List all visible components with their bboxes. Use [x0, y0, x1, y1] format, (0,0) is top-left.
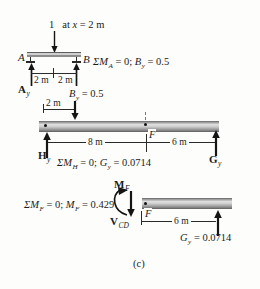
dim-label-2m-left: 2 m — [34, 75, 49, 85]
dimension-tick-mid — [53, 68, 54, 78]
reaction-label-hy: Hy — [38, 149, 50, 161]
dim-label-6m-bottom: 6 m — [172, 216, 191, 226]
figure-beam-analysis: 1at x = 2 m A B 2 m 2 m Ay ΣMA = 0; By =… — [0, 0, 260, 289]
point-f-dashed-tick — [145, 112, 146, 120]
dim-label-2m-offset: 2 m — [46, 98, 61, 108]
span-dimension-line — [48, 142, 215, 143]
beam-hg — [39, 121, 219, 132]
beam-left-pin-dot — [44, 124, 47, 127]
unit-load-label: 1at x = 2 m — [49, 19, 104, 31]
shear-label-vcd: VCD — [110, 215, 129, 227]
point-f-tick-bottom — [141, 211, 142, 225]
beam-ab — [27, 52, 81, 57]
offset-dimension-tick — [43, 104, 44, 113]
figure-caption: (c) — [133, 258, 145, 270]
equation-sum-mh: ΣMH = 0; Gy = 0.0714 — [57, 157, 151, 169]
point-f-tick — [146, 134, 147, 152]
unit-load-arrow — [50, 31, 59, 53]
node-label-b: B — [83, 53, 90, 65]
shear-arrow-vcd — [126, 191, 136, 217]
reaction-label-gy: Gy — [209, 153, 221, 165]
dim-label-8m: 8 m — [86, 137, 105, 147]
segment-cut-dot — [144, 202, 147, 205]
applied-load-label-by: By = 0.5 — [69, 88, 103, 100]
point-f-dot — [144, 123, 147, 126]
beam-segment-fg — [142, 198, 232, 209]
dim-label-2m-right: 2 m — [58, 75, 73, 85]
reaction-arrow-b — [72, 63, 81, 86]
applied-load-arrow-by — [70, 101, 80, 120]
dim-label-6m-mid: 6 m — [170, 137, 189, 147]
node-label-a: A — [18, 51, 25, 63]
equation-sum-mf: ΣMF = 0; MF = 0.429 — [24, 199, 114, 211]
dimension-line-ab — [31, 73, 77, 74]
point-f-label-bottom: F — [144, 208, 152, 220]
equation-sum-ma: ΣMA = 0; By = 0.5 — [93, 56, 169, 68]
point-f-label-mid: F — [148, 129, 156, 141]
reaction-value-gy-bottom: Gy = 0.0714 — [180, 232, 231, 244]
unit-load-value: 1 — [49, 19, 54, 30]
reaction-label-ay: Ay — [18, 83, 30, 95]
